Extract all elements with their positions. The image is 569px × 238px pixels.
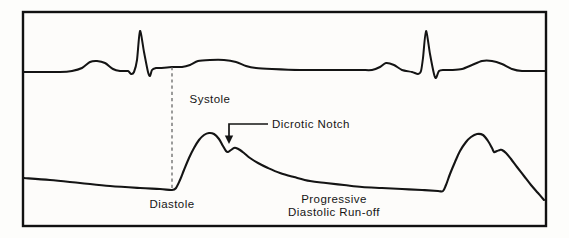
label-dicrotic-notch: Dicrotic Notch: [272, 118, 350, 130]
waveform-canvas: Systole Dicrotic Notch Diastole Progress…: [0, 0, 569, 238]
label-runoff-line1: Progressive: [301, 193, 367, 205]
label-runoff-line2: Diastolic Run-off: [288, 206, 380, 218]
label-diastole: Diastole: [149, 198, 194, 210]
cardiac-waveform-figure: Systole Dicrotic Notch Diastole Progress…: [0, 0, 569, 238]
label-systole: Systole: [190, 93, 231, 105]
